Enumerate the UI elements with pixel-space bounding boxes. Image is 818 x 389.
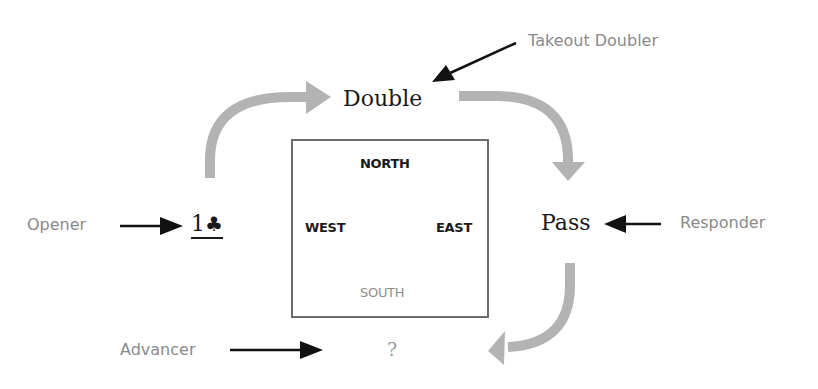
pointer-arrow-advancer-icon (230, 341, 323, 359)
pointer-arrow-responder-icon (604, 215, 661, 233)
club-suit-icon: ♣ (205, 212, 223, 236)
bid-level: 1 (191, 211, 205, 236)
bridge-auction-diagram: NORTH WEST EAST SOUTH Takeout Doubler Op… (0, 0, 818, 389)
role-takeout-doubler-label: Takeout Doubler (528, 33, 658, 49)
role-advancer-label: Advancer (120, 342, 195, 358)
seat-south-label: SOUTH (360, 286, 404, 299)
curved-arrow-down-left-icon (488, 263, 570, 365)
seat-west-label: WEST (305, 221, 345, 234)
bid-double: Double (343, 88, 422, 110)
bid-pass: Pass (541, 212, 591, 234)
role-responder-label: Responder (680, 215, 765, 231)
pointer-arrow-opener-icon (120, 217, 183, 235)
role-opener-label: Opener (27, 217, 86, 233)
seat-north-label: NORTH (360, 157, 410, 170)
bid-unknown: ? (387, 340, 397, 359)
pointer-arrow-takeout-doubler-icon (432, 43, 516, 82)
seat-east-label: EAST (436, 221, 472, 234)
bid-one-club: 1♣ (191, 213, 223, 239)
